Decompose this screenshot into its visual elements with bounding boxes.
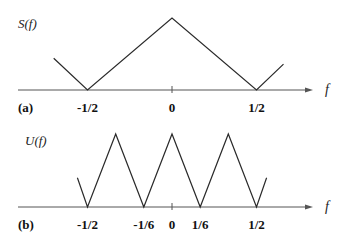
axis-label-f-a: f <box>325 82 331 97</box>
tick-label: -1/6 <box>133 217 154 232</box>
tick-label: -1/2 <box>77 100 98 115</box>
axis-arrow-b-icon <box>305 205 313 210</box>
panel-label-a: (a) <box>18 100 33 115</box>
spectrum-diagram: S(f) f (a) -1/201/2 U(f) f (b) -1/2-1/60… <box>0 0 347 245</box>
curve-s <box>54 18 284 90</box>
tick-label: 1/2 <box>248 100 265 115</box>
panel-b: U(f) f (b) -1/2-1/601/61/2 <box>18 133 331 232</box>
tick-label: -1/2 <box>77 217 98 232</box>
function-label-s: S(f) <box>18 16 37 31</box>
function-label-u: U(f) <box>25 133 47 148</box>
panel-label-b: (b) <box>18 217 34 232</box>
tick-label: 0 <box>169 100 176 115</box>
tick-label: 1/6 <box>192 217 209 232</box>
tick-label: 0 <box>169 217 176 232</box>
tick-label: 1/2 <box>248 217 265 232</box>
axis-arrow-a-icon <box>305 88 313 93</box>
panel-a: S(f) f (a) -1/201/2 <box>18 16 331 115</box>
axis-label-f-b: f <box>325 199 331 214</box>
curve-u <box>77 134 266 207</box>
